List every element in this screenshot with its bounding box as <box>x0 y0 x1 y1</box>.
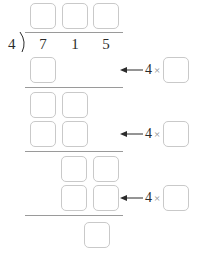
division-bracket <box>19 31 29 53</box>
annotation-row-1: 4 × <box>120 60 160 80</box>
left-arrow-icon <box>120 65 144 75</box>
step1-product-box-1[interactable] <box>30 57 56 83</box>
step2-product-box-2[interactable] <box>62 121 88 147</box>
annotation-row-3: 4 × <box>120 188 160 208</box>
step2-bringdown-box-1[interactable] <box>30 92 56 118</box>
left-arrow-icon <box>120 193 144 203</box>
left-arrow-icon <box>120 129 144 139</box>
dividend-digit-1: 7 <box>30 37 56 52</box>
quotient-box-2[interactable] <box>62 3 88 29</box>
times-symbol-1: × <box>154 65 160 76</box>
step2-bringdown-box-2[interactable] <box>62 92 88 118</box>
annotation-factor-box-3[interactable] <box>163 185 189 211</box>
multiplier-label-2: 4 <box>145 127 152 141</box>
times-symbol-3: × <box>154 193 160 204</box>
dividend-digit-3: 5 <box>93 37 119 52</box>
subtraction-line-3 <box>25 215 123 216</box>
step3-product-box-2[interactable] <box>93 185 119 211</box>
divisor: 4 <box>8 37 16 52</box>
dividend-digit-2: 1 <box>62 37 88 52</box>
step3-product-box-1[interactable] <box>61 185 87 211</box>
annotation-row-2: 4 × <box>120 124 160 144</box>
long-division-worksheet: 4 7 1 5 4 × 4 <box>0 0 201 260</box>
annotation-factor-box-1[interactable] <box>163 57 189 83</box>
annotation-factor-box-2[interactable] <box>163 121 189 147</box>
times-symbol-2: × <box>154 129 160 140</box>
subtraction-line-2 <box>25 151 123 152</box>
remainder-box[interactable] <box>84 222 110 248</box>
quotient-box-1[interactable] <box>30 3 56 29</box>
step3-bringdown-box-2[interactable] <box>93 156 119 182</box>
step3-bringdown-box-1[interactable] <box>61 156 87 182</box>
step2-product-box-1[interactable] <box>30 121 56 147</box>
multiplier-label-3: 4 <box>145 191 152 205</box>
multiplier-label-1: 4 <box>145 63 152 77</box>
quotient-box-3[interactable] <box>93 3 119 29</box>
subtraction-line-1 <box>25 87 123 88</box>
division-bar <box>25 32 123 33</box>
